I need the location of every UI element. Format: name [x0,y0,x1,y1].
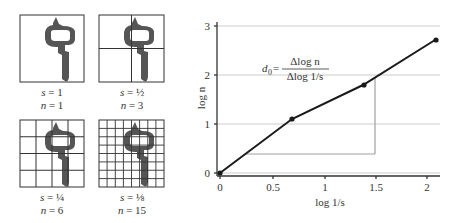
x-axis-label: log 1/s [315,196,345,208]
formula-numerator: Δlog n [290,55,320,67]
label-box-1: s = 1 n = 1 [12,86,92,112]
svg-text:0.5: 0.5 [266,181,280,193]
data-point [289,116,294,121]
data-point [361,82,366,87]
svg-text:=: = [273,62,279,74]
label-box-2: s = ½ n = 3 [92,86,172,112]
svg-text:1: 1 [322,181,328,193]
chart-svg: 3 2 1 0 0 0.5 1 1.5 2 log 1/s log n d 0 … [180,0,462,223]
formula-denominator: Δlog 1/s [287,70,324,82]
formula-annotation: d 0 = Δlog n Δlog 1/s [262,55,329,82]
box-s-quarter [20,120,84,187]
data-series-line [220,40,435,173]
svg-text:2: 2 [205,69,211,81]
box-counting-panels: s = 1 n = 1 s = ½ n = 3 s = ¼ n = 6 s = … [0,0,180,223]
y-axis-label: log n [195,86,207,109]
label-box-4: s = ⅛ n = 15 [92,191,172,217]
svg-text:1: 1 [205,118,211,130]
axes [214,22,440,179]
svg-text:0: 0 [217,181,223,193]
label-box-3: s = ¼ n = 6 [12,191,92,217]
box-s-eighth [99,120,164,187]
box-s1 [20,15,84,82]
x-tick-labels: 0 0.5 1 1.5 2 [217,181,430,193]
svg-text:0: 0 [268,68,272,77]
svg-text:2: 2 [424,181,430,193]
box-s-half [99,15,164,82]
svg-text:0: 0 [205,167,211,179]
data-point [217,170,222,175]
svg-text:1.5: 1.5 [369,181,383,193]
log-log-chart: 3 2 1 0 0 0.5 1 1.5 2 log 1/s log n d 0 … [180,0,462,223]
data-point [433,37,438,42]
svg-text:3: 3 [205,20,211,32]
